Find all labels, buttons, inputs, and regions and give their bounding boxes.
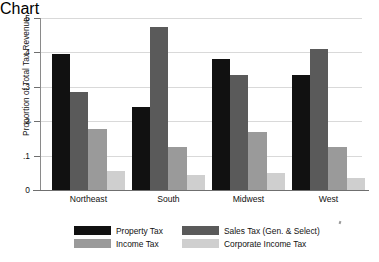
legend-entry: Property Tax <box>74 226 182 236</box>
plot-area <box>41 18 362 190</box>
bar <box>230 75 248 190</box>
legend-entry: Income Tax <box>74 239 182 249</box>
bar <box>132 107 150 190</box>
bar <box>52 54 70 190</box>
bar <box>88 129 106 190</box>
chart-legend: Property TaxSales Tax (Gen. & Select)Inc… <box>74 224 334 250</box>
bar-group-northeast <box>52 18 125 190</box>
y-tick-label: .2 <box>0 117 30 125</box>
bar-group-south <box>132 18 205 190</box>
legend-label: Property Tax <box>116 226 163 236</box>
bar <box>310 49 328 190</box>
bar <box>328 147 346 190</box>
legend-swatch <box>182 226 219 235</box>
bar <box>107 171 125 190</box>
bar <box>168 147 186 190</box>
bar <box>70 92 88 190</box>
x-axis-label-northeast: Northeast <box>52 194 125 204</box>
y-tick-label: .3 <box>0 83 30 91</box>
legend-label: Income Tax <box>116 239 159 249</box>
y-tick-mark <box>34 190 40 191</box>
x-axis-label-west: West <box>292 194 365 204</box>
bar <box>347 178 365 190</box>
legend-label: Corporate Income Tax <box>224 239 306 249</box>
legend-swatch <box>74 239 111 248</box>
x-axis-label-midwest: Midwest <box>212 194 285 204</box>
y-tick-mark <box>34 156 40 157</box>
y-tick-label: .1 <box>0 152 30 160</box>
y-tick-mark <box>34 87 40 88</box>
y-tick-mark <box>34 18 40 19</box>
bar <box>150 27 168 190</box>
bar <box>212 59 230 190</box>
scan-artifact-speck <box>339 221 342 224</box>
bar <box>292 75 310 190</box>
y-tick-label: .5 <box>0 14 30 22</box>
bar <box>267 173 285 190</box>
y-tick-mark <box>34 52 40 53</box>
y-tick-label: .4 <box>0 48 30 56</box>
x-axis-line <box>33 190 369 191</box>
y-tick-mark <box>34 121 40 122</box>
legend-swatch <box>182 239 219 248</box>
bar <box>187 175 205 190</box>
legend-entry: Sales Tax (Gen. & Select) <box>182 226 334 236</box>
bar-group-west <box>292 18 365 190</box>
bar <box>248 132 266 190</box>
bar-chart: Proportion of Total Tax Revenue 0.1.2.3.… <box>0 0 379 262</box>
bar-group-midwest <box>212 18 285 190</box>
legend-entry: Corporate Income Tax <box>182 239 334 249</box>
y-tick-label: 0 <box>0 186 30 194</box>
legend-label: Sales Tax (Gen. & Select) <box>224 226 320 236</box>
x-axis-label-south: South <box>132 194 205 204</box>
legend-swatch <box>74 226 111 235</box>
